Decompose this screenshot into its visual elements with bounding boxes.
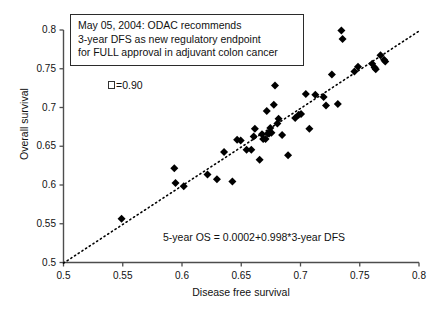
annotation-line-3: for FULL approval in adjuvant colon canc… [78,46,296,60]
x-tick-label: 0.5 [44,271,84,281]
x-tick-label: 0.55 [103,271,143,281]
regression-equation-label: 5-year OS = 0.0002+0.998*3-year DFS [163,231,345,243]
y-axis-title: Overall survival [18,54,30,194]
correlation-label: =0.90 [108,79,143,91]
annotation-line-1: May 05, 2004: ODAC recommends [78,19,296,33]
x-axis-title: Disease free survival [63,286,419,298]
missing-glyph-icon [108,81,115,89]
x-tick-label: 0.8 [399,271,439,281]
x-tick-label: 0.75 [340,271,380,281]
annotation-line-2: 3-year DFS as new regulatory endpoint [78,33,296,47]
annotation-note-box: May 05, 2004: ODAC recommends 3-year DFS… [70,14,304,66]
correlation-value: =0.90 [116,79,143,91]
x-tick-label: 0.6 [162,271,202,281]
x-tick-label: 0.65 [221,271,261,281]
x-tick-label: 0.7 [281,271,321,281]
scatter-plot-figure: 0.50.550.60.650.70.750.8 0.50.550.60.650… [0,0,444,310]
